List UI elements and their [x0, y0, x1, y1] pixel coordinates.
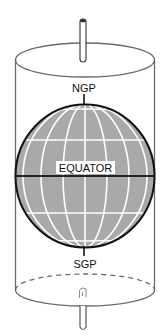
- diagram-canvas: NGP: [0, 0, 165, 336]
- axis-rod-bottom: [80, 306, 86, 330]
- figure-caption-fragment: [2, 0, 163, 4]
- celestial-sphere-diagram: NGP: [0, 0, 165, 336]
- axis-rod-top: [80, 19, 86, 62]
- rod-end-inner-mark: [80, 288, 87, 298]
- cylinder-bottom-ellipse: [16, 274, 155, 306]
- sgp-label: SGP: [73, 258, 96, 270]
- equator-label: EQUATOR: [59, 162, 112, 174]
- ngp-label: NGP: [72, 82, 96, 94]
